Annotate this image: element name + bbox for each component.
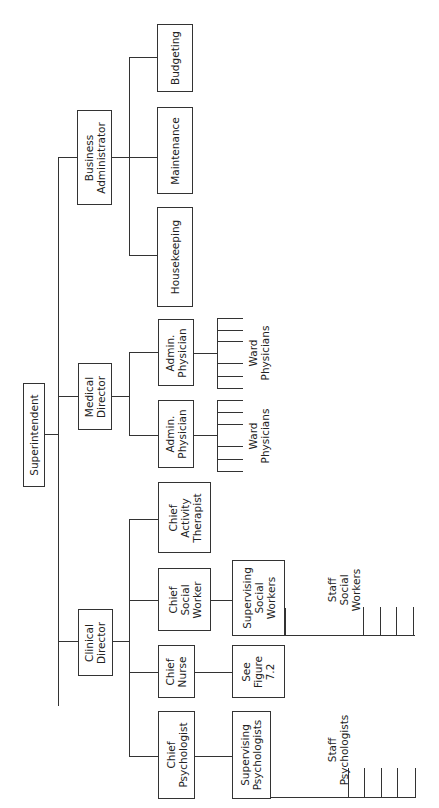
label-staff-social-workers: Staff Social Workers	[322, 570, 367, 610]
comb-tick	[381, 768, 382, 798]
node-admin-physician: Admin. Physician	[158, 400, 194, 468]
connector	[129, 435, 158, 436]
node-business-administrator: Business Administrator	[77, 110, 112, 205]
comb-tick	[217, 388, 243, 389]
trunk-line	[58, 157, 59, 706]
node-label: Ward Physicians	[247, 326, 271, 381]
connector	[211, 600, 233, 601]
node-chief-activity-therapist: Chief Activity Therapist	[158, 482, 211, 553]
connector	[195, 756, 233, 757]
node-chief-psychologist: Chief Psychologist	[158, 711, 195, 799]
comb-spine	[217, 318, 218, 388]
connector	[45, 434, 59, 435]
node-clinical-director: Clinical Director	[78, 609, 113, 676]
branch-line	[129, 519, 130, 757]
node-label: Supervising Psychologists	[240, 720, 264, 791]
node-label: Chief Social Worker	[167, 581, 203, 618]
comb-tick	[217, 363, 243, 364]
connector	[129, 672, 158, 673]
connector	[129, 352, 158, 353]
node-admin-physician: Admin. Physician	[158, 319, 194, 386]
label-staff-psychologists: Staff Psychologists	[318, 715, 358, 785]
comb-tick	[217, 459, 243, 460]
node-medical-director: Medical Director	[78, 363, 112, 430]
comb-tick	[217, 412, 243, 413]
connector	[194, 353, 217, 354]
connector	[129, 756, 158, 757]
comb-tick	[397, 768, 398, 798]
node-label: Chief Psychologist	[165, 722, 189, 787]
node-supervising-social-workers: Supervising Social Workers	[232, 560, 285, 636]
connector	[112, 157, 157, 158]
staff-psychologists-baseline	[271, 797, 416, 798]
comb-tick	[217, 471, 243, 472]
node-label: Supervising Social Workers	[241, 567, 277, 629]
connector	[58, 157, 77, 158]
node-label: Staff Social Workers	[327, 569, 363, 611]
label-ward-physicians: Ward Physicians	[244, 398, 274, 474]
comb-tick	[217, 400, 243, 401]
node-label: Housekeeping	[169, 220, 181, 294]
node-maintenance: Maintenance	[157, 107, 193, 194]
comb-tick	[380, 607, 381, 636]
node-label: Ward Physicians	[247, 409, 271, 464]
branch-line	[129, 352, 130, 436]
connector	[113, 641, 130, 642]
comb-tick	[217, 330, 243, 331]
connector	[129, 255, 157, 256]
node-label: Staff Psychologists	[326, 715, 350, 786]
node-housekeeping: Housekeeping	[157, 207, 193, 307]
node-supervising-psychologists: Supervising Psychologists	[232, 711, 271, 799]
node-label: Chief Activity Therapist	[166, 493, 202, 542]
node-label: Medical Director	[83, 375, 107, 417]
comb-tick	[217, 446, 243, 447]
node-label: Chief Nurse	[164, 656, 188, 687]
node-label: Budgeting	[169, 31, 181, 85]
node-label: Clinical Director	[84, 621, 108, 663]
connector	[58, 641, 78, 642]
node-chief-social-worker: Chief Social Worker	[158, 568, 211, 631]
comb-tick	[217, 424, 243, 425]
node-label: Business Administrator	[83, 122, 107, 194]
node-superintendent: Superintendent	[23, 383, 45, 487]
node-label: See Figure 7.2	[241, 655, 277, 687]
node-see-figure: See Figure 7.2	[232, 645, 285, 698]
connector	[129, 519, 158, 520]
comb-tick	[396, 607, 397, 636]
connector	[58, 396, 78, 397]
comb-tick	[415, 768, 416, 798]
node-label: Superintendent	[28, 394, 40, 475]
connector	[129, 57, 157, 58]
connector	[129, 600, 158, 601]
connector	[112, 396, 130, 397]
comb-tick	[217, 376, 243, 377]
comb-spine	[217, 400, 218, 471]
comb-tick	[363, 607, 364, 636]
connector	[194, 435, 217, 436]
comb-tick	[217, 341, 243, 342]
branch-line	[129, 57, 130, 256]
comb-tick	[413, 607, 414, 636]
comb-tick	[364, 768, 365, 798]
node-budgeting: Budgeting	[157, 24, 193, 92]
comb-base	[285, 608, 286, 636]
comb-tick	[217, 318, 243, 319]
node-chief-nurse: Chief Nurse	[158, 645, 195, 698]
node-label: Admin. Physician	[164, 409, 188, 458]
node-label: Admin. Physician	[164, 328, 188, 377]
connector	[195, 672, 233, 673]
node-label: Maintenance	[169, 117, 181, 185]
label-ward-physicians: Ward Physicians	[244, 315, 274, 391]
